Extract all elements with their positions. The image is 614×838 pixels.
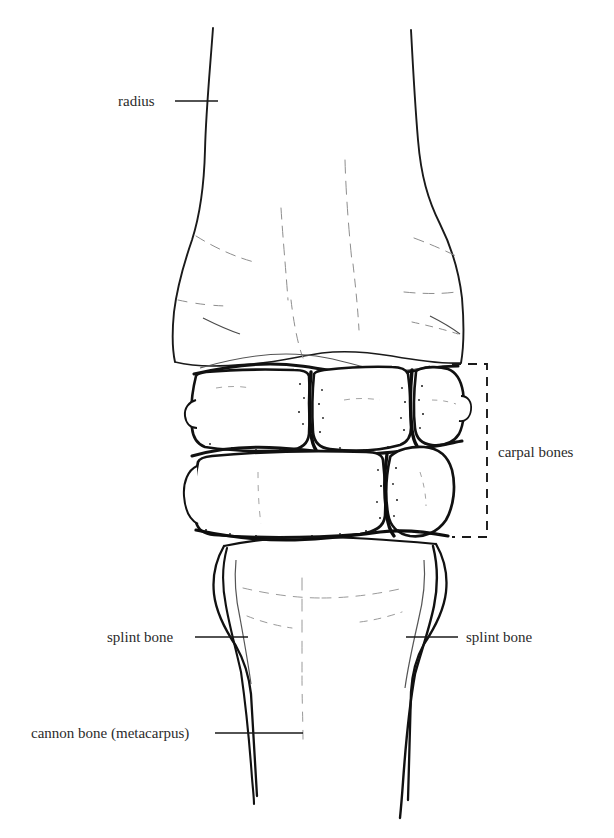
label-cannon-bone: cannon bone (metacarpus)	[31, 726, 189, 741]
distal-carpal-row	[184, 441, 462, 540]
diagram-canvas: radius carpal bones splint bone splint b…	[0, 0, 614, 838]
radius-bone	[173, 28, 464, 366]
label-splint-bone-left: splint bone	[107, 630, 173, 645]
label-splint-bone-right: splint bone	[466, 630, 532, 645]
equine-carpus-illustration	[0, 0, 614, 838]
splint-bone-right	[400, 546, 437, 818]
label-carpal-bones: carpal bones	[498, 445, 573, 460]
proximal-carpal-row	[185, 354, 471, 451]
label-radius: radius	[118, 94, 155, 109]
